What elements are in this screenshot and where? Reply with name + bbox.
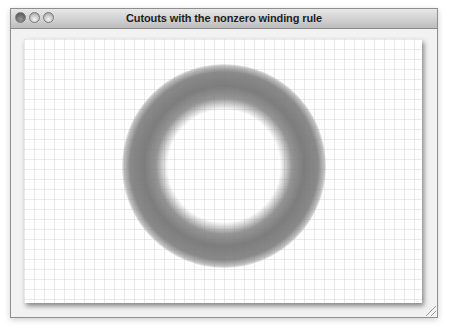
title-bar[interactable]: Cutouts with the nonzero winding rule xyxy=(11,9,437,29)
drawing-canvas xyxy=(24,39,422,303)
window-title: Cutouts with the nonzero winding rule xyxy=(11,12,437,24)
ring-cutout-shape xyxy=(122,64,326,268)
window-content xyxy=(11,29,437,317)
app-window: Cutouts with the nonzero winding rule xyxy=(10,8,438,318)
resize-grip-icon[interactable] xyxy=(426,306,436,316)
